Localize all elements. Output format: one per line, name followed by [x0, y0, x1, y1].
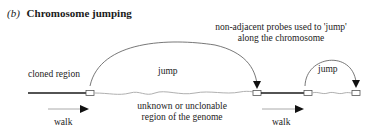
jump-arrowhead-1 [253, 81, 261, 89]
unknown-region-line-2 [312, 92, 352, 93]
probe-box-4 [352, 91, 360, 96]
probe-box-1 [86, 91, 94, 96]
probe-box-2 [253, 91, 261, 96]
walk-arrowhead-1 [80, 105, 89, 113]
jump-arrowhead-2 [352, 80, 360, 88]
jump-arc-2 [305, 60, 356, 86]
jump-arc-1 [90, 42, 257, 86]
chromosome-diagram [0, 0, 374, 133]
probe-box-3 [304, 91, 312, 96]
unknown-region-line [94, 91, 260, 94]
walk-arrowhead-2 [295, 105, 304, 113]
